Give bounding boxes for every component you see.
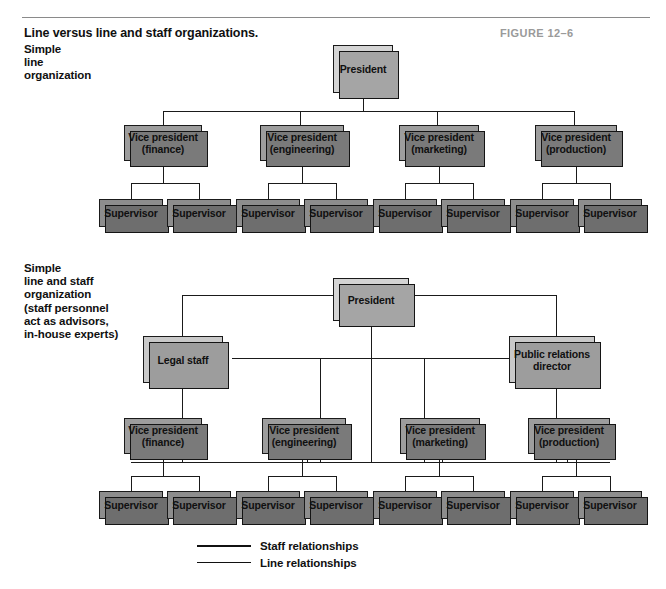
node-label: Supervisor (378, 207, 431, 219)
node-label: Supervisor (309, 499, 362, 511)
node-label: Supervisor (309, 207, 362, 219)
node-label: Vice president (marketing) (400, 131, 478, 155)
node-label: Vice president (finance) (125, 131, 201, 155)
node-vice-president-marketing-chart2[interactable]: Vice president (marketing) (400, 418, 480, 454)
node-vice-president-production-chart1[interactable]: Vice president (production) (535, 125, 617, 161)
node-supervisor-chart1-2[interactable]: Supervisor (167, 199, 231, 227)
legend-item-line-relationships: Line relationships (197, 554, 457, 571)
node-label: Public relations director (510, 348, 594, 372)
node-supervisor-chart1-8[interactable]: Supervisor (578, 199, 642, 227)
staff-relationship-line-icon (197, 545, 251, 547)
node-supervisor-chart2-6[interactable]: Supervisor (441, 491, 505, 519)
node-label: Supervisor (378, 499, 431, 511)
node-supervisor-chart2-7[interactable]: Supervisor (510, 491, 574, 519)
node-label: President (348, 294, 395, 306)
node-label: Vice president (engineering) (263, 424, 345, 448)
node-label: Vice president (production) (529, 424, 609, 448)
node-supervisor-chart1-1[interactable]: Supervisor (99, 199, 163, 227)
node-supervisor-chart1-6[interactable]: Supervisor (441, 199, 505, 227)
node-label: President (340, 63, 387, 75)
legend-label: Line relationships (260, 557, 357, 569)
node-supervisor-chart1-7[interactable]: Supervisor (510, 199, 574, 227)
node-label: Vice president (finance) (125, 424, 201, 448)
node-supervisor-chart2-2[interactable]: Supervisor (167, 491, 231, 519)
node-supervisor-chart1-4[interactable]: Supervisor (304, 199, 368, 227)
legend-label: Staff relationships (260, 540, 358, 552)
legend-item-staff-relationships: Staff relationships (197, 537, 457, 554)
line-relationship-line-icon (197, 562, 251, 563)
node-label: Supervisor (172, 207, 225, 219)
node-president-chart1[interactable]: President (333, 45, 393, 93)
node-vice-president-finance-chart1[interactable]: Vice president (finance) (124, 125, 202, 161)
node-vice-president-marketing-chart1[interactable]: Vice president (marketing) (399, 125, 479, 161)
node-president-chart2[interactable]: President (333, 278, 409, 321)
node-supervisor-chart2-3[interactable]: Supervisor (236, 491, 300, 519)
node-label: Supervisor (241, 499, 294, 511)
node-label: Supervisor (104, 499, 157, 511)
node-supervisor-chart1-3[interactable]: Supervisor (236, 199, 300, 227)
legend: Staff relationships Line relationships (197, 537, 457, 571)
node-label: Vice president (marketing) (401, 424, 479, 448)
node-label: Supervisor (515, 207, 568, 219)
node-label: Supervisor (446, 207, 499, 219)
node-label: Supervisor (583, 499, 636, 511)
node-legal-staff[interactable]: Legal staff (143, 336, 223, 383)
node-label: Supervisor (446, 499, 499, 511)
node-vice-president-production-chart2[interactable]: Vice president (production) (528, 418, 610, 454)
node-label: Supervisor (583, 207, 636, 219)
node-vice-president-engineering-chart2[interactable]: Vice president (engineering) (262, 418, 346, 454)
node-supervisor-chart2-5[interactable]: Supervisor (373, 491, 437, 519)
node-supervisor-chart2-8[interactable]: Supervisor (578, 491, 642, 519)
node-label: Vice president (production) (536, 131, 616, 155)
node-label: Supervisor (172, 499, 225, 511)
node-vice-president-finance-chart2[interactable]: Vice president (finance) (124, 418, 202, 454)
node-label: Supervisor (515, 499, 568, 511)
node-supervisor-chart2-1[interactable]: Supervisor (99, 491, 163, 519)
node-label: Vice president (engineering) (261, 131, 343, 155)
node-supervisor-chart1-5[interactable]: Supervisor (373, 199, 437, 227)
node-label: Supervisor (104, 207, 157, 219)
node-supervisor-chart2-4[interactable]: Supervisor (304, 491, 368, 519)
node-label: Supervisor (241, 207, 294, 219)
node-public-relations-director[interactable]: Public relations director (509, 336, 595, 383)
node-vice-president-engineering-chart1[interactable]: Vice president (engineering) (260, 125, 344, 161)
node-label: Legal staff (158, 354, 209, 366)
